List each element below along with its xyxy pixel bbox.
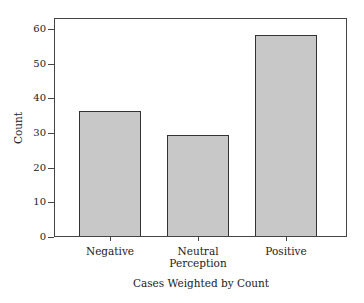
y-tick [48, 29, 54, 30]
x-tick-label-line: Positive [241, 245, 331, 257]
y-tick [48, 98, 54, 99]
y-tick-label: 50 [33, 59, 46, 69]
x-tick-label: Positive [241, 245, 331, 257]
x-tick-label-line: Perception [153, 257, 243, 269]
y-tick-label: 10 [33, 197, 46, 207]
y-tick-label: 60 [33, 24, 46, 34]
x-tick [110, 237, 111, 241]
x-tick-label-line: Neutral [153, 245, 243, 257]
y-tick-label: 0 [40, 232, 46, 242]
y-tick [48, 202, 54, 203]
x-tick-label: NeutralPerception [153, 245, 243, 269]
y-axis-title: Count [12, 108, 24, 148]
x-tick-label-line: Negative [65, 245, 155, 257]
y-tick-label: 40 [33, 93, 46, 103]
y-tick [48, 133, 54, 134]
x-tick [198, 237, 199, 241]
bar-negative [79, 111, 141, 236]
y-tick [48, 64, 54, 65]
y-tick [48, 237, 54, 238]
x-tick-label: Negative [65, 245, 155, 257]
bar-neutral-perception [167, 135, 229, 236]
x-axis-title: Cases Weighted by Count [1, 277, 364, 289]
y-tick-label: 30 [33, 128, 46, 138]
y-tick [48, 168, 54, 169]
bar-positive [255, 35, 317, 236]
plot-area [54, 18, 347, 237]
x-tick [286, 237, 287, 241]
y-tick-label: 20 [33, 163, 46, 173]
